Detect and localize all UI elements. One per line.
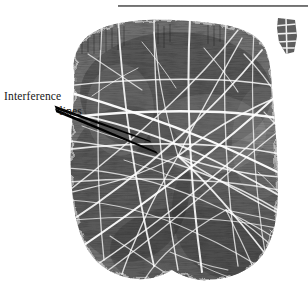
top-horizontal-rule [118,5,308,7]
top-right-fragment [272,14,304,60]
annotation-label-line-2: lines [4,104,86,119]
annotation-label-line-1: Interference [4,89,86,104]
palm-print-svg [58,14,308,294]
annotation-label: Interference lines [4,89,86,119]
print-body [58,14,308,294]
palm-print-plate [58,14,308,294]
figure-root: Interference lines [0,0,308,301]
